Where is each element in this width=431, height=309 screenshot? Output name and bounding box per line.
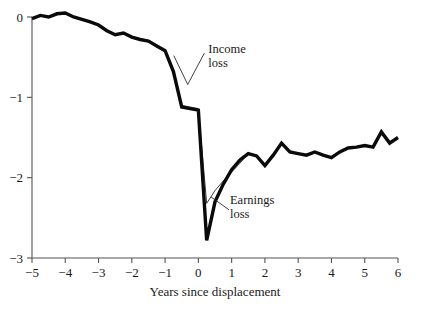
x-tick-label: 5 [361,265,368,280]
x-tick-label: 4 [328,265,335,280]
x-tick-label: −4 [58,265,72,280]
chart-annotations: IncomelossEarningsloss [174,42,275,221]
series-line-income-loss [173,72,248,204]
chart-figure: 0−1−2−3 −5−4−3−2−10123456 IncomelossEarn… [0,0,431,309]
x-axis-title: Years since displacement [150,284,281,299]
y-tick-label: −1 [9,90,23,105]
x-tick-label: −2 [125,265,139,280]
y-axis-ticks [27,17,32,258]
y-tick-label: −2 [9,170,23,185]
annotation-leader-income [174,53,205,84]
x-tick-label: 0 [195,265,202,280]
x-tick-label: −1 [158,265,172,280]
annotation-label-earnings-line2: loss [230,207,250,221]
y-tick-label: 0 [17,10,24,25]
y-tick-label: −3 [9,251,23,266]
annotation-label-income-line2: loss [208,56,228,70]
x-axis-ticks [32,258,398,263]
annotation-label-earnings: Earnings [230,193,275,207]
x-tick-label: 1 [228,265,235,280]
x-tick-label: 6 [395,265,402,280]
x-tick-label: −5 [25,265,39,280]
y-axis-tick-labels: 0−1−2−3 [9,10,23,266]
x-axis-tick-labels: −5−4−3−2−10123456 [25,265,402,280]
chart-canvas: 0−1−2−3 −5−4−3−2−10123456 IncomelossEarn… [0,0,431,309]
x-tick-label: −3 [92,265,106,280]
annotation-label-income: Income [208,42,246,56]
x-tick-label: 2 [262,265,269,280]
x-tick-label: 3 [295,265,302,280]
